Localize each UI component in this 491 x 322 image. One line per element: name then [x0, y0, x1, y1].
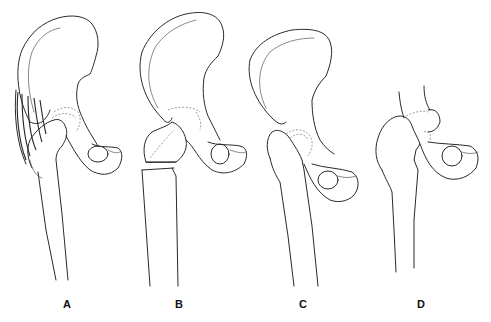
panel-b-drawing	[140, 13, 247, 287]
panel-label-b: B	[169, 298, 189, 310]
hip-figure: A B C D	[0, 0, 491, 322]
panel-label-d: D	[411, 298, 431, 310]
hip-illustrations	[0, 0, 491, 322]
panel-label-c: C	[293, 298, 313, 310]
panel-d-drawing	[376, 86, 478, 272]
panel-label-a: A	[57, 298, 77, 310]
panel-a-drawing	[15, 16, 121, 280]
panel-c-drawing	[249, 29, 358, 286]
